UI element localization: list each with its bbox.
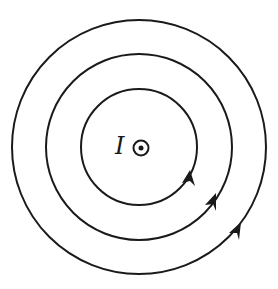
arrow-icon-middle	[205, 193, 216, 211]
field-diagram: I	[0, 0, 278, 289]
diagram-canvas: I	[0, 0, 278, 289]
arrow-icon-outer	[229, 222, 241, 240]
current-label: I	[114, 132, 125, 160]
out-of-page-dot-icon	[134, 141, 149, 156]
